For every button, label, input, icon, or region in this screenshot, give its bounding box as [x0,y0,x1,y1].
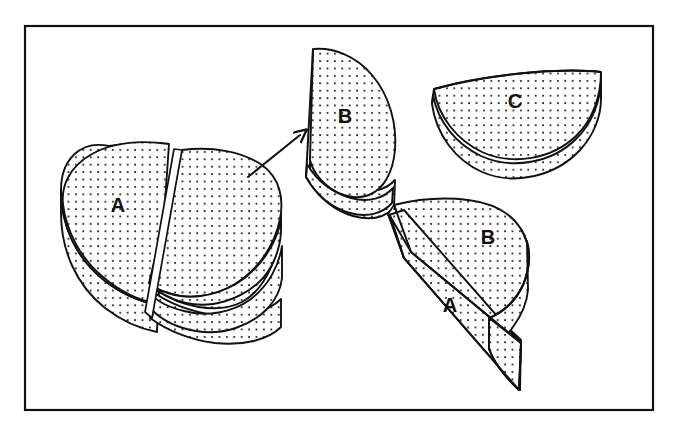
label-b-standing: B [481,226,495,248]
label-b-top: B [338,105,352,127]
label-c-right: C [508,90,522,112]
label-a-standing: A [443,294,457,316]
label-a-left: A [111,194,125,216]
cylinder-bisection-diagram: A B C B A [0,0,675,428]
figure-root: A B C B A [0,0,675,428]
